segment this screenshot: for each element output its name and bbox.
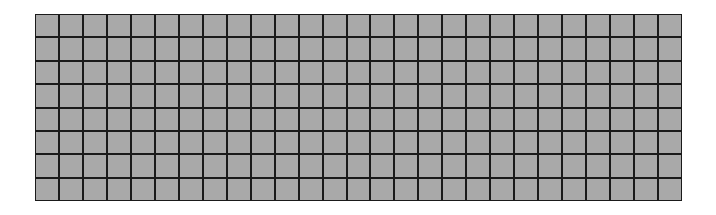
grid-cell xyxy=(587,15,609,36)
grid-cell xyxy=(36,179,58,200)
grid-cell xyxy=(611,155,633,176)
grid-cell xyxy=(108,38,130,59)
grid-cell xyxy=(132,38,154,59)
grid-cell xyxy=(276,85,298,106)
grid-cell xyxy=(563,155,585,176)
grid-cell xyxy=(324,38,346,59)
grid-cell xyxy=(539,85,561,106)
grid-cell xyxy=(60,85,82,106)
grid-cell xyxy=(132,132,154,153)
grid-cell xyxy=(491,38,513,59)
grid-cell xyxy=(611,85,633,106)
grid-cell xyxy=(300,15,322,36)
grid-cell xyxy=(371,38,393,59)
grid-cell xyxy=(611,38,633,59)
grid-cell xyxy=(228,62,250,83)
grid-cell xyxy=(419,38,441,59)
grid-cell xyxy=(84,109,106,130)
grid-cell xyxy=(635,62,657,83)
grid-cell xyxy=(443,85,465,106)
grid-cell xyxy=(300,85,322,106)
grid-cell xyxy=(132,62,154,83)
grid-cell xyxy=(419,132,441,153)
grid-cell xyxy=(515,132,537,153)
grid-cell xyxy=(587,132,609,153)
grid-cell xyxy=(204,85,226,106)
grid-cell xyxy=(443,15,465,36)
grid-cell xyxy=(300,38,322,59)
grid-cell xyxy=(276,132,298,153)
grid-cell xyxy=(467,15,489,36)
grid-cell xyxy=(563,15,585,36)
grid-cell xyxy=(156,109,178,130)
grid-cell xyxy=(60,155,82,176)
grid-cell xyxy=(108,85,130,106)
grid-cell xyxy=(36,85,58,106)
grid-cell xyxy=(659,62,681,83)
grid-cell xyxy=(228,132,250,153)
grid-cell xyxy=(611,179,633,200)
grid-cell xyxy=(204,109,226,130)
grid-cell xyxy=(348,38,370,59)
grid-cell xyxy=(156,85,178,106)
grid-cell xyxy=(587,62,609,83)
grid-cell xyxy=(659,155,681,176)
grid-cell xyxy=(300,109,322,130)
grid-cell xyxy=(659,85,681,106)
grid-cell xyxy=(491,109,513,130)
grid-cell xyxy=(324,62,346,83)
grid-cell xyxy=(228,155,250,176)
grid-cell xyxy=(515,179,537,200)
grid-cell xyxy=(659,15,681,36)
grid-cell xyxy=(36,155,58,176)
grid-cell xyxy=(635,15,657,36)
grid-cell xyxy=(228,85,250,106)
grid-cell xyxy=(276,155,298,176)
grid-cell xyxy=(252,132,274,153)
grid-cell xyxy=(108,15,130,36)
grid-cell xyxy=(491,85,513,106)
grid-cell xyxy=(204,62,226,83)
grid-cell xyxy=(467,62,489,83)
grid-cell xyxy=(635,109,657,130)
grid-cell xyxy=(395,15,417,36)
grid-cell xyxy=(180,38,202,59)
grid-cell xyxy=(252,38,274,59)
grid-cell xyxy=(395,155,417,176)
grid-cell xyxy=(467,132,489,153)
grid-cell xyxy=(60,132,82,153)
grid-cell xyxy=(659,38,681,59)
grid-cell xyxy=(36,132,58,153)
grid-cell xyxy=(419,155,441,176)
grid-cell xyxy=(611,62,633,83)
grid-cell xyxy=(348,85,370,106)
grid-cell xyxy=(300,179,322,200)
grid-cell xyxy=(60,179,82,200)
grid-cell xyxy=(587,85,609,106)
grid-cell xyxy=(515,38,537,59)
grid-cell xyxy=(204,155,226,176)
grid-cell xyxy=(324,155,346,176)
grid-cell xyxy=(371,62,393,83)
grid-cell xyxy=(228,109,250,130)
grid-cell xyxy=(348,15,370,36)
grid-cell xyxy=(204,38,226,59)
grid-cell xyxy=(539,155,561,176)
grid-cell xyxy=(180,85,202,106)
grid-cell xyxy=(419,179,441,200)
grid-cell xyxy=(156,38,178,59)
grid-cell xyxy=(252,62,274,83)
grid-cell xyxy=(84,132,106,153)
grid-cell xyxy=(443,155,465,176)
grid-cell xyxy=(60,62,82,83)
grid-cell xyxy=(635,155,657,176)
grid-cell xyxy=(515,155,537,176)
grid-cell xyxy=(371,179,393,200)
grid-cell xyxy=(180,179,202,200)
grid-cell xyxy=(419,109,441,130)
grid-cell xyxy=(587,155,609,176)
grid-cell xyxy=(539,109,561,130)
grid-cell xyxy=(132,85,154,106)
grid-cell xyxy=(252,85,274,106)
grid-cell xyxy=(563,38,585,59)
